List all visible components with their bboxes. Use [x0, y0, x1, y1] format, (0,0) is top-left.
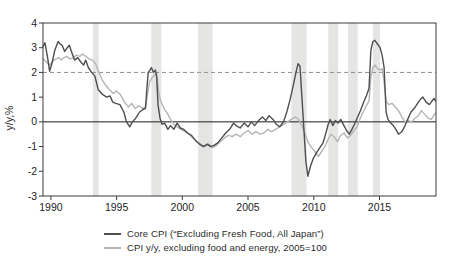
recession-band [151, 23, 161, 196]
legend-item-core-cpi: Core CPI (“Excluding Fresh Food, All Jap… [104, 227, 327, 240]
y-tick-label: 0 [31, 115, 37, 127]
y-tick-label: 2 [31, 66, 37, 78]
legend-label-cpi-ex-food-energy: CPI y/y, excluding food and energy, 2005… [127, 242, 327, 253]
y-tick-label: 4 [31, 17, 37, 29]
recession-band [93, 23, 99, 196]
x-tick-label: 1995 [105, 201, 129, 213]
core-cpi-line-swatch [104, 233, 121, 235]
recession-band [198, 23, 213, 196]
y-tick-label: -3 [28, 190, 37, 202]
legend-label-core-cpi: Core CPI (“Excluding Fresh Food, All Jap… [127, 228, 324, 239]
y-tick-label: 1 [31, 91, 37, 103]
cpi-inflation-chart-figure: 43210-1-2-3199019952000200520102015y/y,%… [0, 0, 453, 263]
x-tick-label: 2005 [236, 201, 260, 213]
y-tick-label: -2 [28, 165, 37, 177]
cpi-ex-food-energy-line-swatch [104, 247, 121, 249]
y-tick-label: -1 [28, 140, 37, 152]
x-tick-label: 2000 [171, 201, 195, 213]
recession-band [291, 23, 306, 196]
x-tick-label: 1990 [39, 201, 63, 213]
recession-band [328, 23, 338, 196]
legend-item-cpi-ex-food-energy: CPI y/y, excluding food and energy, 2005… [104, 241, 327, 254]
chart-legend: Core CPI (“Excluding Fresh Food, All Jap… [104, 227, 327, 254]
recession-band [348, 23, 358, 196]
y-tick-label: 3 [31, 41, 37, 53]
cpi-inflation-chart: 43210-1-2-3199019952000200520102015y/y,% [0, 0, 453, 263]
x-tick-label: 2010 [302, 201, 326, 213]
y-axis-label: y/y,% [3, 106, 15, 131]
x-tick-label: 2015 [368, 201, 392, 213]
recession-band [373, 23, 380, 196]
